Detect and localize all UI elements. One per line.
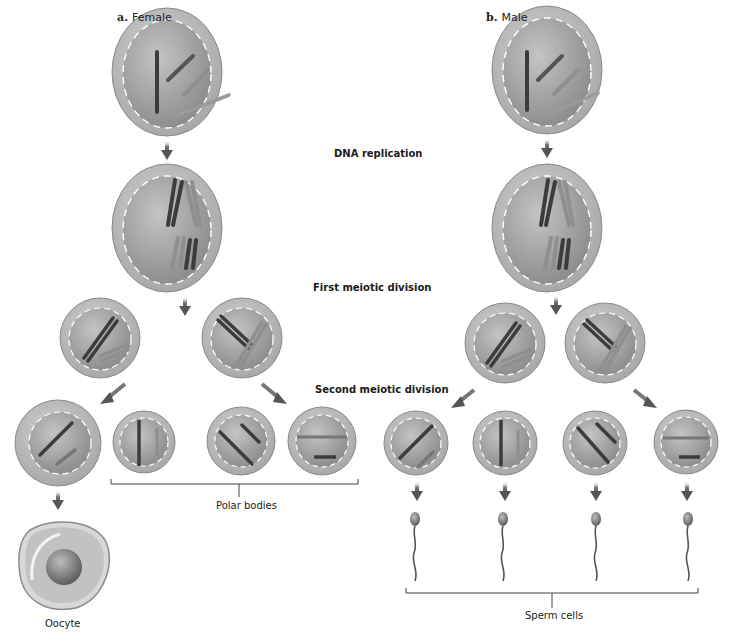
- arrow-down-icon: [179, 296, 191, 316]
- panel-title: Male: [502, 11, 528, 24]
- arrow-down-icon: [590, 481, 602, 501]
- female-first-polar-body: [202, 298, 282, 378]
- male-parent-cell: [492, 6, 602, 134]
- panel-letter: a.: [117, 11, 128, 24]
- polar-body-1: [113, 411, 175, 473]
- panel-label-female: a.Female: [117, 11, 172, 24]
- sperm-cell-icon: [591, 512, 601, 581]
- sperm-cell-icon: [683, 512, 693, 581]
- panel-title: Female: [132, 11, 172, 24]
- spermatid-4: [654, 410, 718, 474]
- male-replicated-cell: [492, 164, 602, 292]
- arrow-down-icon: [550, 295, 562, 315]
- step-label-second-meiotic-division: Second meiotic division: [315, 384, 449, 395]
- step-label-dna-replication: DNA replication: [334, 148, 423, 159]
- arrow-down-left-icon: [451, 390, 474, 408]
- step-label-first-meiotic-division: First meiotic division: [313, 282, 431, 293]
- arrow-down-left-icon: [100, 384, 125, 404]
- spermatid-1: [384, 411, 448, 475]
- arrow-down-icon: [52, 490, 64, 510]
- arrow-down-icon: [681, 481, 693, 501]
- oocyte-cell: [19, 522, 109, 609]
- arrow-down-icon: [411, 481, 423, 501]
- arrow-down-right-icon: [262, 384, 287, 404]
- arrow-down-right-icon: [634, 390, 657, 408]
- female-parent-cell: [112, 8, 229, 136]
- female-replicated-cell: [112, 164, 222, 292]
- polar-bodies-bracket: [111, 479, 358, 497]
- female-ootid-cell: [15, 400, 101, 486]
- meiosis-diagram: [0, 0, 738, 644]
- polar-body-3: [288, 407, 356, 475]
- sperm-cells-bracket: [406, 588, 698, 608]
- label-oocyte: Oocyte: [45, 618, 80, 629]
- sperm-cell-icon: [498, 512, 508, 581]
- polar-body-2: [207, 407, 275, 475]
- male-secondary-spermatocyte-2: [565, 303, 645, 383]
- male-secondary-spermatocyte-1: [465, 303, 545, 383]
- spermatid-3: [563, 411, 627, 475]
- label-sperm-cells: Sperm cells: [525, 610, 583, 621]
- panel-label-male: b.Male: [486, 11, 528, 24]
- arrow-down-icon: [541, 138, 553, 158]
- spermatid-2: [473, 411, 537, 475]
- female-secondary-oocyte: [60, 298, 140, 378]
- sperm-cell-icon: [410, 512, 420, 581]
- arrow-down-icon: [499, 481, 511, 501]
- panel-letter: b.: [486, 11, 498, 24]
- label-polar-bodies: Polar bodies: [216, 500, 277, 511]
- arrow-down-icon: [161, 140, 173, 160]
